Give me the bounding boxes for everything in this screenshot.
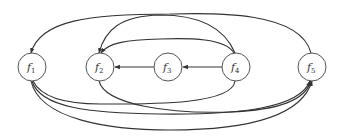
edge-f4-f2-top-inner [101, 39, 234, 53]
node-f2: f2 [86, 53, 114, 81]
edge-f4-f1-bottom [33, 81, 235, 104]
node-f3: f3 [154, 53, 182, 81]
edge-f4-f2-top-upper [99, 15, 235, 53]
edge-f2-f5-bottom [99, 81, 311, 112]
edge-f1-f5-bottom-outer [31, 81, 312, 130]
nodes: f1 f2 f3 f4 f5 [18, 53, 326, 81]
edge-f1-f5-bottom [32, 81, 310, 114]
graph-diagram: f1 f2 f3 f4 f5 [0, 0, 341, 140]
node-f4: f4 [222, 53, 250, 81]
node-f1: f1 [18, 53, 46, 81]
node-f5: f5 [298, 53, 326, 81]
edge-f5-f1-top [31, 14, 311, 53]
